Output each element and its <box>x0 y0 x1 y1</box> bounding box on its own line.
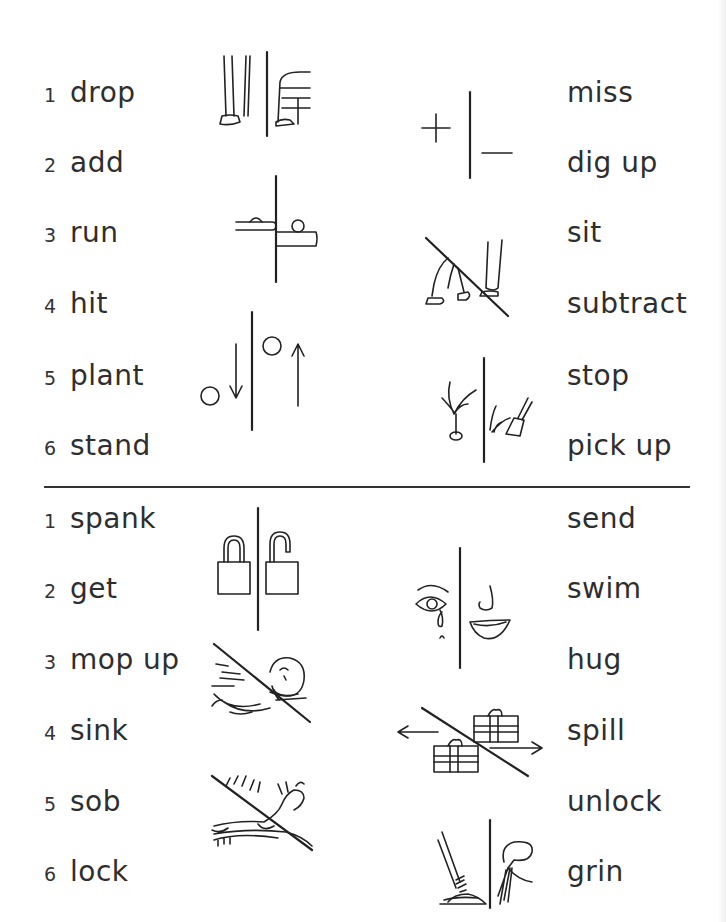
item-word: spank <box>70 502 156 535</box>
item-word: add <box>70 146 124 179</box>
right-word: swim <box>567 572 642 605</box>
right-word: pick up <box>567 429 672 462</box>
list-item: 2 get <box>44 572 117 608</box>
lock-unlock-icon <box>214 508 304 632</box>
list-item: 4 hit <box>44 287 108 323</box>
sit-stand-icon <box>424 236 514 318</box>
hit-miss-icon <box>232 176 324 286</box>
section-divider <box>44 486 690 488</box>
item-number: 5 <box>44 793 70 815</box>
item-word: mop up <box>70 643 180 676</box>
item-word: lock <box>70 855 129 888</box>
right-word: miss <box>567 76 633 109</box>
list-item: 6 lock <box>44 855 129 891</box>
list-item: 6 stand <box>44 429 151 465</box>
item-word: hit <box>70 287 108 320</box>
item-number: 5 <box>44 367 70 389</box>
list-item: 1 spank <box>44 502 156 538</box>
right-word: spill <box>567 714 625 747</box>
up-down-icon <box>198 312 314 434</box>
hug-spank-icon <box>208 774 314 856</box>
item-number: 6 <box>44 863 70 885</box>
add-subtract-icon <box>420 90 520 182</box>
right-word: sit <box>567 216 602 249</box>
list-item: 5 plant <box>44 359 144 395</box>
sob-grin-icon <box>414 546 524 670</box>
item-word: stand <box>70 429 151 462</box>
item-number: 1 <box>44 510 70 532</box>
item-word: sink <box>70 714 128 747</box>
right-word: unlock <box>567 785 662 818</box>
item-word: get <box>70 572 117 605</box>
list-item: 5 sob <box>44 785 121 821</box>
item-number: 3 <box>44 224 70 246</box>
plant-dig-up-icon <box>440 358 540 466</box>
item-word: run <box>70 216 119 249</box>
item-number: 1 <box>44 84 70 106</box>
list-item: 3 run <box>44 216 119 252</box>
item-number: 2 <box>44 154 70 176</box>
page-edge-shadow <box>718 0 726 922</box>
list-item: 2 add <box>44 146 124 182</box>
swim-sink-icon <box>210 642 314 730</box>
list-item: 1 drop <box>44 76 136 112</box>
mop-spill-icon <box>438 818 538 912</box>
item-number: 2 <box>44 580 70 602</box>
stand-sit-icon <box>210 52 310 142</box>
item-number: 6 <box>44 437 70 459</box>
item-number: 4 <box>44 722 70 744</box>
item-word: drop <box>70 76 136 109</box>
item-number: 4 <box>44 295 70 317</box>
item-number: 3 <box>44 651 70 673</box>
right-word: grin <box>567 855 624 888</box>
item-word: sob <box>70 785 121 818</box>
right-word: stop <box>567 359 629 392</box>
right-word: send <box>567 502 636 535</box>
list-item: 3 mop up <box>44 643 180 679</box>
item-word: plant <box>70 359 144 392</box>
right-word: subtract <box>567 287 687 320</box>
list-item: 4 sink <box>44 714 128 750</box>
send-get-icon <box>392 706 552 784</box>
right-word: hug <box>567 643 622 676</box>
right-word: dig up <box>567 146 658 179</box>
